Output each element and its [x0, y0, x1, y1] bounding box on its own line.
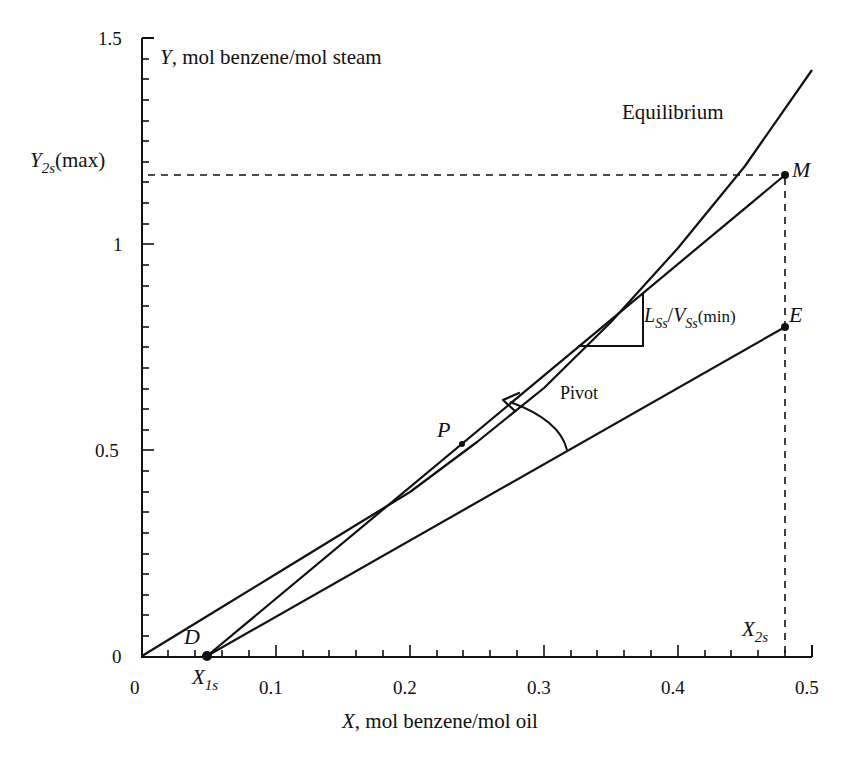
x-axis-title: X, mol benzene/mol oil	[341, 709, 538, 733]
x-ticks	[168, 645, 785, 657]
x-tick-0.2: 0.2	[393, 677, 417, 698]
point-M	[781, 171, 789, 179]
equilibrium-label: Equilibrium	[622, 100, 724, 124]
chart: 0 0.5 1 1.5 0 0.1 0.2 0.3 0.4 0.5 Y, mol…	[0, 0, 848, 760]
y-tick-1.5: 1.5	[98, 28, 122, 49]
pivot-label: Pivot	[560, 383, 598, 403]
x1s-label: X1s	[191, 665, 218, 693]
label-M: M	[791, 157, 812, 182]
x-tick-0.3: 0.3	[527, 677, 551, 698]
x-tick-0.5: 0.5	[795, 677, 819, 698]
equilibrium-curve	[142, 70, 812, 656]
label-D: D	[183, 624, 200, 649]
x-tick-0.1: 0.1	[259, 677, 283, 698]
point-P	[459, 441, 465, 447]
y-axis-title: Y, mol benzene/mol steam	[160, 45, 382, 69]
y-tick-0.5: 0.5	[95, 440, 119, 461]
axes	[141, 38, 812, 657]
y-ticks	[142, 59, 154, 636]
min-operating-line	[207, 175, 785, 656]
y-tick-labels: 0 0.5 1 1.5	[95, 28, 123, 667]
x-tick-labels: 0 0.1 0.2 0.3 0.4 0.5	[130, 677, 819, 698]
operating-line	[207, 327, 785, 656]
dashed-guides	[148, 175, 785, 655]
slope-label: LSs/VSs(min)	[643, 304, 736, 331]
label-P: P	[436, 417, 450, 442]
label-E: E	[788, 302, 803, 327]
y-tick-0: 0	[112, 646, 122, 667]
point-E	[781, 323, 789, 331]
x2s-label: X2s	[741, 617, 768, 645]
y-tick-1: 1	[113, 234, 123, 255]
x-tick-0: 0	[130, 677, 140, 698]
y2s-max-label: Y2s(max)	[30, 148, 105, 176]
x-tick-0.4: 0.4	[661, 677, 685, 698]
point-D	[202, 651, 212, 661]
